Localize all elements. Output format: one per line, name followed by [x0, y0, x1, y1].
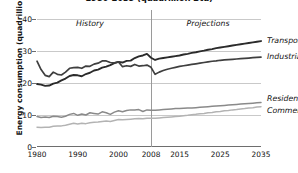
y-tick-mark [32, 51, 36, 52]
y-tick-label: 20 [22, 79, 32, 88]
y-tick-mark [32, 83, 36, 84]
y-tick-mark [32, 19, 36, 20]
y-tick-label: 40 [22, 15, 32, 24]
chart-figure: 1980-2035 (quadrillion Btu) Energy consu… [0, 0, 298, 173]
x-tick-label: 2035 [252, 150, 271, 159]
series-line-industrial [37, 57, 261, 77]
series-label-commercial: Commercial [267, 106, 298, 115]
series-label-residential: Residential [267, 94, 298, 103]
series-lines [37, 19, 261, 147]
chart-title: 1980-2035 (quadrillion Btu) [0, 0, 298, 3]
x-tick-label: 2000 [109, 150, 128, 159]
series-line-transportation [37, 41, 261, 86]
x-tick-label: 2008 [142, 150, 161, 159]
x-tick-label: 1990 [68, 150, 87, 159]
series-label-industrial: Industrial [267, 52, 298, 61]
y-tick-mark [32, 147, 36, 148]
x-tick-label: 2015 [170, 150, 189, 159]
plot-area: 010203040 1980199020002008201520252035 H… [37, 19, 261, 147]
y-tick-label: 10 [22, 111, 32, 120]
x-tick-label: 1980 [28, 150, 47, 159]
x-tick-label: 2025 [211, 150, 230, 159]
y-tick-mark [32, 115, 36, 116]
series-label-transportation: Transportation [267, 36, 298, 45]
y-tick-label: 30 [22, 47, 32, 56]
